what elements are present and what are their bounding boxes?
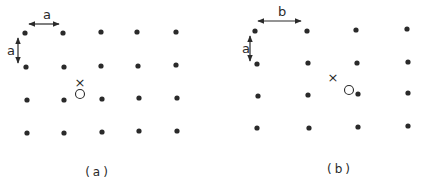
lattice-point (173, 62, 178, 67)
lattice-point (136, 95, 141, 100)
horizontal-spacing-label: b (278, 4, 286, 19)
lattice-diagram: aa×(a) ba×(b) (0, 0, 426, 190)
lattice-point (254, 61, 259, 66)
lattice-point (23, 64, 28, 69)
lattice-point (61, 130, 66, 135)
lattice-point (135, 63, 140, 68)
lattice-point (134, 29, 139, 34)
lattice-point (304, 28, 309, 33)
lattice-point (24, 97, 29, 102)
lattice-point (173, 29, 178, 34)
lattice-point (174, 128, 179, 133)
lattice-point (252, 28, 257, 33)
panel-caption: (b) (327, 162, 353, 176)
open-circle-marker (76, 90, 85, 99)
lattice-point (174, 95, 179, 100)
lattice-point (24, 130, 29, 135)
lattice-point (22, 30, 27, 35)
lattice-point (305, 92, 310, 97)
lattice-point (98, 63, 103, 68)
lattice-point (405, 59, 410, 64)
lattice-point (405, 90, 410, 95)
lattice-point (305, 60, 310, 65)
cross-marker-icon: × (328, 70, 339, 85)
lattice-point (99, 96, 104, 101)
lattice-point (354, 60, 359, 65)
lattice-point (355, 91, 360, 96)
lattice-point (99, 129, 104, 134)
lattice-point (60, 30, 65, 35)
panel-caption: (a) (85, 165, 111, 179)
vertical-spacing-label: a (7, 43, 15, 58)
lattice-point (404, 26, 409, 31)
lattice-point (254, 125, 259, 130)
lattice-point (306, 125, 311, 130)
vertical-spacing-label: a (242, 41, 250, 56)
lattice-point (405, 123, 410, 128)
lattice-point (98, 29, 103, 34)
cross-marker-icon: × (75, 75, 86, 90)
open-circle-marker (345, 86, 354, 95)
lattice-point (61, 64, 66, 69)
horizontal-spacing-label: a (43, 7, 51, 22)
lattice-point (61, 97, 66, 102)
lattice-point (136, 128, 141, 133)
panel-b: ba×(b) (242, 4, 411, 176)
panel-a: aa×(a) (7, 7, 180, 179)
lattice-point (355, 124, 360, 129)
lattice-point (255, 93, 260, 98)
lattice-point (353, 27, 358, 32)
